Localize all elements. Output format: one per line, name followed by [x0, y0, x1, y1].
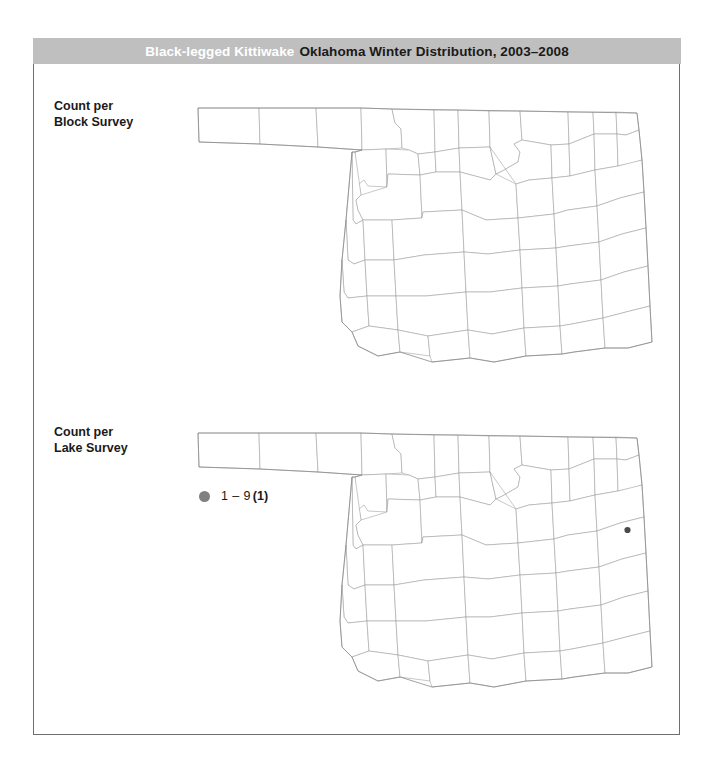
data-point-lake-survey — [624, 527, 630, 533]
map-lake-survey — [196, 425, 661, 693]
county-boundaries — [198, 108, 652, 362]
distribution-subtitle: Oklahoma Winter Distribution, 2003–2008 — [299, 44, 568, 59]
species-title: Black-legged Kittiwake — [145, 44, 294, 59]
oklahoma-county-map-block — [196, 100, 661, 368]
map-block-survey — [196, 100, 661, 368]
title-bar: Black-legged Kittiwake Oklahoma Winter D… — [33, 38, 681, 64]
oklahoma-county-map-lake — [196, 425, 661, 693]
county-boundaries — [198, 433, 652, 687]
lake-survey-label: Count per Lake Survey — [54, 424, 128, 456]
map-page: Black-legged Kittiwake Oklahoma Winter D… — [0, 0, 712, 763]
block-survey-label: Count per Block Survey — [54, 98, 133, 130]
